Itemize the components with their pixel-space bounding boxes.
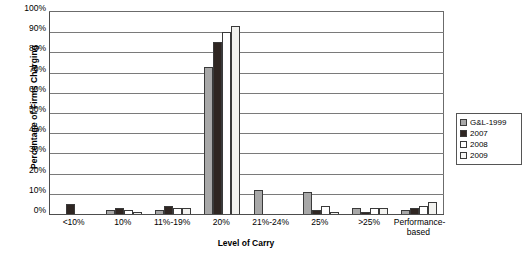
bar xyxy=(370,208,379,214)
legend-item: G&L-1999 xyxy=(460,117,517,128)
bar xyxy=(428,202,437,214)
legend-item: 2007 xyxy=(460,128,517,139)
bar-cluster xyxy=(395,12,444,214)
bar xyxy=(213,42,222,214)
x-axis-tick-label: 21%-24% xyxy=(246,217,295,227)
bar xyxy=(303,192,312,214)
legend-swatch-icon xyxy=(460,130,467,137)
bar xyxy=(115,208,124,214)
y-axis-tick-30: 30% xyxy=(12,144,46,154)
bar xyxy=(155,210,164,214)
bar xyxy=(330,212,339,214)
bar xyxy=(410,208,419,214)
y-axis-tick-80: 80% xyxy=(12,43,46,53)
x-axis-tick-label: 10% xyxy=(98,217,147,227)
bar xyxy=(66,204,75,214)
bar xyxy=(401,210,410,214)
bar xyxy=(173,208,182,214)
y-axis-tick-40: 40% xyxy=(12,124,46,134)
bar xyxy=(419,206,428,214)
bar-cluster xyxy=(296,12,345,214)
y-axis-tick-90: 90% xyxy=(12,23,46,33)
plot-area xyxy=(49,12,444,215)
legend-swatch-icon xyxy=(460,141,467,148)
bar-chart: Percentage of Firms Charging 0%10%20%30%… xyxy=(0,0,529,261)
y-axis-tick-100: 100% xyxy=(12,3,46,13)
x-axis-tick-label: <10% xyxy=(49,217,98,227)
chart-legend: G&L-1999200720082009 xyxy=(456,113,522,165)
bar xyxy=(204,67,213,214)
bar xyxy=(352,208,361,214)
bar xyxy=(182,208,191,214)
legend-item-label: 2009 xyxy=(470,151,488,160)
y-axis-tick-60: 60% xyxy=(12,84,46,94)
legend-item-label: 2008 xyxy=(470,140,488,149)
bar-cluster xyxy=(99,12,148,214)
legend-swatch-icon xyxy=(460,152,467,159)
y-axis-tick-50: 50% xyxy=(12,104,46,114)
bar xyxy=(361,212,370,214)
bar-cluster xyxy=(247,12,296,214)
x-axis-tick-label: 20% xyxy=(197,217,246,227)
legend-item: 2008 xyxy=(460,139,517,150)
bar xyxy=(254,190,263,214)
bar-cluster xyxy=(198,12,247,214)
legend-item-label: 2007 xyxy=(470,129,488,138)
bar xyxy=(222,32,231,214)
y-axis-tick-10: 10% xyxy=(12,185,46,195)
bar xyxy=(379,208,388,214)
y-axis-tick-0: 0% xyxy=(12,205,46,215)
y-axis-tick-70: 70% xyxy=(12,64,46,74)
bar-cluster xyxy=(50,12,99,214)
legend-swatch-icon xyxy=(460,119,467,126)
x-axis-title: Level of Carry xyxy=(49,238,443,248)
bar-cluster xyxy=(149,12,198,214)
x-axis-tick-label: Performance- based xyxy=(394,217,443,237)
x-axis-tick-label: 25% xyxy=(295,217,344,227)
bar xyxy=(133,212,142,214)
bar xyxy=(231,26,240,214)
legend-item-label: G&L-1999 xyxy=(470,118,506,127)
bar xyxy=(106,210,115,214)
bar xyxy=(312,210,321,214)
bar xyxy=(321,206,330,214)
legend-item: 2009 xyxy=(460,150,517,161)
x-axis-tick-label: >25% xyxy=(345,217,394,227)
y-axis-tick-20: 20% xyxy=(12,165,46,175)
bar xyxy=(124,210,133,214)
x-axis-tick-label: 11%-19% xyxy=(148,217,197,227)
bar xyxy=(164,206,173,214)
bar-cluster xyxy=(346,12,395,214)
y-axis-tick-labels: 0%10%20%30%40%50%60%70%80%90%100% xyxy=(12,8,46,215)
